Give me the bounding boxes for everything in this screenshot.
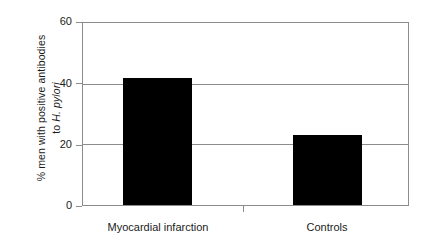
- bar-controls: [293, 135, 362, 205]
- y-axis-title-prefix: to: [50, 122, 62, 134]
- y-axis-title-line-2: to H. pylori: [49, 8, 64, 208]
- x-axis-label-myocardial-infarction: Myocardial infarction: [98, 220, 218, 234]
- y-axis-title-line-1: % men with positive antibodies: [34, 8, 49, 208]
- x-tick-mark-divider: [243, 206, 244, 212]
- y-tick-label-0: 0: [46, 200, 72, 211]
- y-tick-label-60-container: 60: [42, 16, 72, 28]
- y-tick-label-40: 40: [46, 78, 72, 89]
- y-axis-title: % men with positive antibodies to H. pyl…: [34, 8, 63, 208]
- y-tick-label-60: 60: [46, 16, 72, 27]
- bar-chart-figure: % men with positive antibodies to H. pyl…: [0, 0, 431, 251]
- y-tick-label-20: 20: [46, 139, 72, 150]
- y-axis-title-container: % men with positive antibodies to H. pyl…: [0, 0, 44, 215]
- y-tick-label-0-container: 0: [42, 200, 72, 212]
- bar-myocardial-infarction: [123, 78, 192, 205]
- y-tick-label-20-container: 20: [42, 139, 72, 151]
- plot-area: [82, 22, 409, 206]
- y-tick-mark-0: [76, 206, 82, 207]
- y-tick-label-40-container: 40: [42, 78, 72, 90]
- x-axis-label-controls: Controls: [287, 220, 367, 234]
